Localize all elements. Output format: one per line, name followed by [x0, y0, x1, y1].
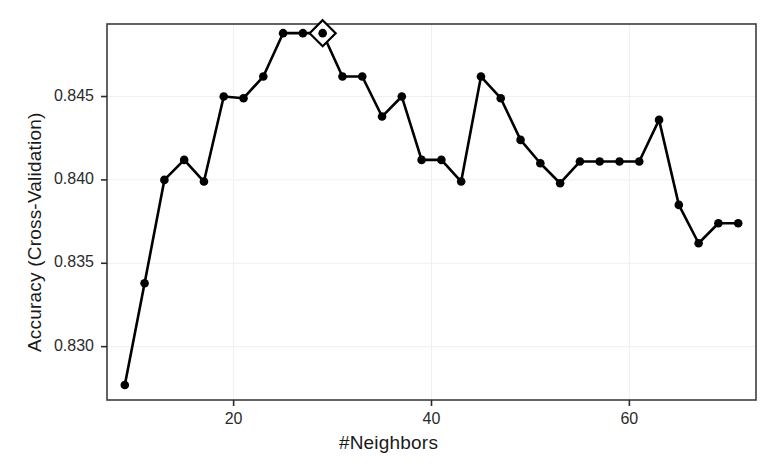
data-point-marker [299, 29, 308, 38]
y-tick-label: 0.835 [20, 253, 94, 271]
data-point-marker [437, 156, 446, 165]
plot-area [0, 0, 777, 467]
y-tick-label: 0.830 [20, 337, 94, 355]
data-point-marker [219, 92, 228, 101]
data-point-marker [457, 177, 466, 186]
data-point-marker [595, 157, 604, 166]
data-point-marker [338, 72, 347, 81]
optimum-point-marker [318, 29, 327, 38]
data-point-marker [239, 94, 248, 103]
knn-accuracy-chart: Accuracy (Cross-Validation) #Neighbors 0… [0, 0, 777, 467]
data-point-marker [378, 112, 387, 121]
x-tick-label: 20 [204, 410, 264, 428]
data-point-marker [675, 201, 684, 210]
data-point-marker [259, 72, 268, 81]
data-point-marker [417, 156, 426, 165]
data-point-marker [477, 72, 486, 81]
data-point-marker [734, 219, 743, 228]
x-axis-title: #Neighbors [0, 432, 777, 454]
data-point-marker [556, 179, 565, 188]
data-point-marker [160, 176, 169, 185]
x-tick-label: 40 [402, 410, 462, 428]
data-point-marker [398, 92, 407, 101]
tick-marks [101, 97, 629, 406]
data-point-marker [516, 136, 525, 145]
data-point-marker [358, 72, 367, 81]
data-point-marker [615, 157, 624, 166]
x-tick-label: 60 [599, 410, 659, 428]
y-tick-label: 0.840 [20, 170, 94, 188]
data-point-marker [536, 159, 545, 168]
data-point-marker [714, 219, 723, 228]
data-point-marker [279, 29, 288, 38]
data-point-marker [635, 157, 644, 166]
data-point-marker [140, 279, 149, 288]
data-point-marker [121, 381, 130, 390]
data-point-marker [576, 157, 585, 166]
gridlines [107, 24, 756, 400]
y-axis-title: Accuracy (Cross-Validation) [24, 113, 46, 352]
data-point-marker [180, 156, 189, 165]
data-point-marker [496, 94, 505, 103]
data-point-marker [200, 177, 209, 186]
y-tick-label: 0.845 [20, 87, 94, 105]
data-point-marker [694, 239, 703, 248]
data-point-marker [655, 116, 664, 125]
